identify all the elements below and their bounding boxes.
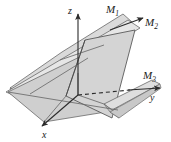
figure-container: M1 M2 M3 z y x [0,0,171,142]
label-x-axis: x [41,129,47,140]
geometry-diagram: M1 M2 M3 z y x [0,0,171,142]
label-y-axis: y [149,92,155,103]
label-m1: M1 [105,3,119,18]
label-m2: M2 [144,16,158,31]
label-z-axis: z [67,5,72,16]
